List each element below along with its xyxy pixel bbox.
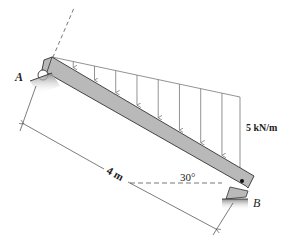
beam-diagram: A B 4 m 30° 5 kN/m <box>0 0 294 251</box>
pin-icon <box>240 179 244 183</box>
dimension-line-right <box>128 182 216 229</box>
label-support-b: B <box>253 196 261 210</box>
ground-b <box>222 199 248 210</box>
dimension-line-left <box>24 124 104 169</box>
label-length: 4 m <box>105 164 126 183</box>
dimension-extension-a <box>20 86 36 131</box>
label-angle: 30° <box>180 171 195 183</box>
label-support-a: A <box>14 70 23 84</box>
label-load-intensity: 5 kN/m <box>246 122 278 133</box>
support-b <box>222 187 248 210</box>
pin-support-icon <box>226 187 248 199</box>
reference-dashed-line-a <box>50 8 74 64</box>
